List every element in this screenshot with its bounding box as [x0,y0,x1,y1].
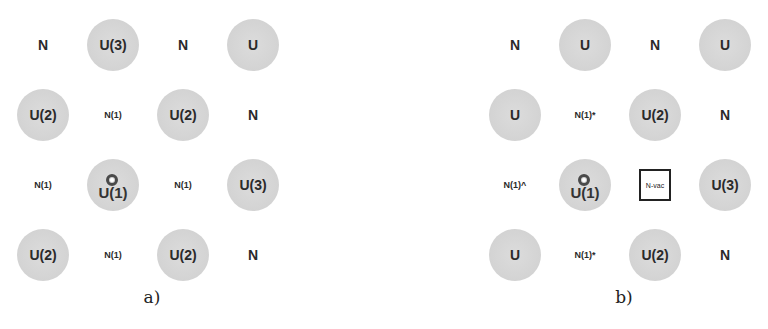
atom-u: U(2) [157,229,209,281]
defect-ring-icon [106,174,118,186]
atom-n: N [489,19,541,71]
atom-u: U(2) [17,89,69,141]
atom-label: N [178,38,188,52]
atom-n: N [227,89,279,141]
atom-label: N(1) [174,181,192,190]
atom-label: U [720,38,730,52]
atom-u: U(3) [699,159,751,211]
defect-ring-icon [578,174,590,186]
atom-label: U [510,108,520,122]
atom-n: N(1)* [559,89,611,141]
atom-u: U(2) [629,229,681,281]
atom-u: U [489,229,541,281]
atom-n: N(1) [87,89,139,141]
atom-label: U(2) [641,248,668,262]
atom-u: U [699,19,751,71]
atom-label: U(3) [711,178,738,192]
atom-n: N [699,89,751,141]
atom-n: N [157,19,209,71]
vacancy-label: N-vac [646,182,664,189]
atom-label: U(1) [570,185,599,200]
atom-u: U(3) [227,159,279,211]
atom-n: N [17,19,69,71]
atom-label: N [248,248,258,262]
nitrogen-vacancy: N-vac [639,169,671,201]
atom-label: N(1) [34,181,52,190]
defect-site: U(1) [87,159,139,211]
panel-caption: a) [144,287,161,307]
atom-u-defect: U(1) [559,159,611,211]
atom-u: U [559,19,611,71]
atom-n: N(1)^ [489,159,541,211]
atom-label: N [720,108,730,122]
atom-n: N [699,229,751,281]
atom-label: U(3) [239,178,266,192]
atom-label: N(1) [104,251,122,260]
panel-a: N U(3) N U U(2) N(1) U(2) N N(1) U(1) N(… [0,0,300,329]
atom-label: N [510,38,520,52]
atom-label: N [248,108,258,122]
atom-label: N [720,248,730,262]
atom-label: U [248,38,258,52]
atom-label: N(1)^ [504,181,527,190]
atom-label: N(1) [104,111,122,120]
atom-label: U(2) [29,108,56,122]
atom-label: U(2) [169,108,196,122]
atom-label: U(3) [99,38,126,52]
atom-n: N [629,19,681,71]
atom-label: N(1)* [574,111,595,120]
atom-u: U(2) [17,229,69,281]
atom-label: U(1) [98,185,127,200]
atom-label: U(2) [169,248,196,262]
atom-n: N(1) [17,159,69,211]
atom-n: N(1)* [559,229,611,281]
atom-u: U [227,19,279,71]
atom-label: U(2) [29,248,56,262]
atom-u: U(3) [87,19,139,71]
atom-n: N [227,229,279,281]
atom-label: N [650,38,660,52]
atom-u: U(2) [629,89,681,141]
atom-u: U(2) [157,89,209,141]
panel-caption: b) [615,287,633,307]
atom-u-defect: U(1) [87,159,139,211]
atom-label: N [38,38,48,52]
atom-n: N(1) [87,229,139,281]
atom-label: U [580,38,590,52]
atom-u: U [489,89,541,141]
atom-label: U(2) [641,108,668,122]
atom-n: N(1) [157,159,209,211]
atom-label: U [510,248,520,262]
defect-site: U(1) [559,159,611,211]
panel-b: N U N U U N(1)* U(2) N N(1)^ U(1) N-vac … [472,0,768,329]
atom-label: N(1)* [574,251,595,260]
